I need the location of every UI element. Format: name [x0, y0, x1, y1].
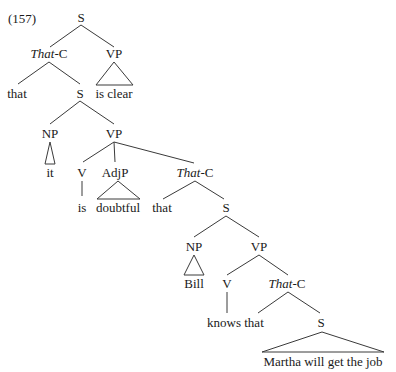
- node-np-2: NP: [186, 239, 203, 254]
- node-that-c-2: That-C: [177, 165, 214, 180]
- edge-s-root-to-that-c: [50, 25, 81, 47]
- node-v-2: V: [222, 276, 232, 291]
- edge-vp-2-to-v: [83, 142, 114, 162]
- node-s-2: S: [76, 86, 83, 101]
- node-s-3: S: [222, 200, 229, 215]
- triangle-np-1: [45, 142, 55, 164]
- edge-that-c-3-to-s: [288, 292, 320, 313]
- terminal-is: is: [78, 200, 87, 215]
- terminal-is-clear: is clear: [95, 86, 133, 101]
- edge-that-c-3-to-that: [258, 292, 288, 313]
- terminal-that-3: that: [244, 315, 264, 330]
- terminal-that-1: that: [7, 86, 27, 101]
- terminal-doubtful: doubtful: [96, 200, 140, 215]
- node-v-1: V: [77, 165, 87, 180]
- edge-s-2-to-np: [50, 101, 80, 124]
- edge-vp-2-to-adjp: [114, 142, 115, 162]
- edge-that-c-2-to-that: [163, 181, 195, 199]
- terminal-bill: Bill: [184, 276, 204, 291]
- edge-that-c-2-to-s: [195, 181, 224, 199]
- edge-vp-3-to-that-c: [259, 255, 288, 275]
- triangle-adjp: [97, 181, 140, 199]
- edge-s-3-to-vp: [226, 216, 259, 237]
- edge-vp-3-to-v: [227, 255, 259, 275]
- triangle-vp-top: [96, 62, 133, 85]
- terminal-knows: knows: [207, 315, 241, 330]
- terminal-it: it: [46, 165, 54, 180]
- example-number: (157): [8, 11, 36, 26]
- edge-s-2-to-vp: [80, 101, 114, 124]
- node-adjp: AdjP: [102, 165, 129, 180]
- edge-that-c-1-to-that: [18, 62, 49, 84]
- node-that-c-1: That-C: [31, 46, 68, 61]
- edge-that-c-1-to-s: [49, 62, 80, 84]
- terminal-that-2: that: [152, 200, 172, 215]
- node-vp-top: VP: [106, 46, 123, 61]
- node-s-root: S: [77, 10, 84, 25]
- triangle-s-4: [262, 332, 384, 352]
- edge-s-root-to-vp: [81, 25, 114, 47]
- terminal-martha-will-get-the-job: Martha will get the job: [263, 354, 382, 369]
- node-s-4: S: [317, 315, 324, 330]
- node-that-c-3: That-C: [269, 276, 306, 291]
- node-vp-3: VP: [251, 239, 268, 254]
- triangle-np-2: [184, 255, 204, 275]
- edge-vp-2-to-that-c: [114, 142, 194, 163]
- node-np-1: NP: [42, 126, 59, 141]
- node-vp-2: VP: [106, 126, 123, 141]
- edge-s-3-to-np: [194, 216, 226, 237]
- syntax-tree-diagram: (157) S That-C VP that S is clear NP VP …: [0, 0, 396, 372]
